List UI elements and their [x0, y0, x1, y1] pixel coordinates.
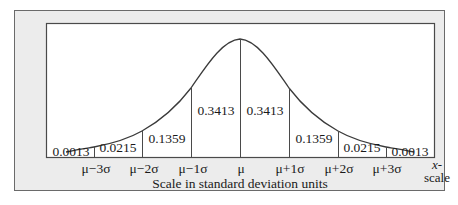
tick-label-plus-3sd: μ+3σ — [373, 162, 402, 176]
x-scale-label: x- scale — [424, 158, 450, 184]
area-label-3sd-2sd: 0.0215 — [99, 141, 136, 155]
x-scale-word: scale — [424, 170, 450, 185]
tick-label-plus-2sd: μ+2σ — [325, 162, 354, 176]
tick-label-minus-3sd: μ−3σ — [82, 162, 111, 176]
area-label-2sd-1sd: 0.1359 — [148, 132, 185, 146]
axis-title: Scale in standard deviation units — [152, 177, 327, 191]
area-label-mean-1sd: 0.3413 — [246, 104, 283, 118]
tick-label-minus-1sd: μ−1σ — [179, 162, 208, 176]
area-label-2sd-3sd: 0.0215 — [343, 141, 380, 155]
tick-label-mean: μ — [237, 162, 244, 176]
area-label-1sd-mean: 0.3413 — [197, 104, 234, 118]
tick-label-minus-2sd: μ−2σ — [130, 162, 159, 176]
area-label-below-3sd: 0.0013 — [52, 145, 89, 159]
area-label-above-3sd: 0.0013 — [391, 145, 428, 159]
area-label-1sd-2sd: 0.1359 — [295, 132, 332, 146]
tick-label-plus-1sd: μ+1σ — [276, 162, 305, 176]
